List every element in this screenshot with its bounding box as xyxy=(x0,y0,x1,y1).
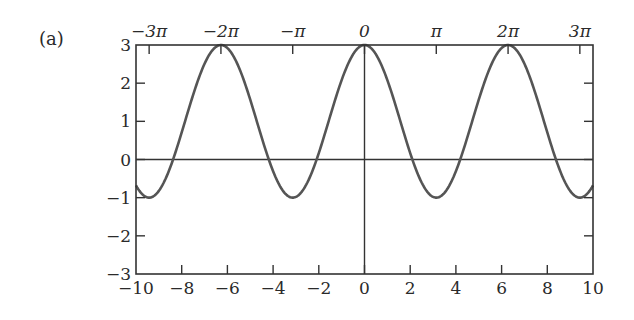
top-x-tick-label: 2π xyxy=(496,21,520,41)
bottom-x-tick-label: −2 xyxy=(306,278,331,298)
bottom-x-tick-labels: −10−8−6−4−20246810 xyxy=(118,278,604,298)
bottom-x-tick-label: −4 xyxy=(261,278,286,298)
top-x-tick-label: π xyxy=(430,21,443,41)
chart: (a) −10−8−6−4−20246810 −3π−2π−π0π2π3π −3… xyxy=(0,0,634,320)
y-tick-label: −1 xyxy=(106,188,131,208)
top-x-tick-label: −2π xyxy=(203,21,240,41)
y-tick-label: 1 xyxy=(120,111,131,131)
top-x-tick-label: 0 xyxy=(359,21,370,41)
top-x-tick-labels: −3π−2π−π0π2π3π xyxy=(131,21,592,41)
bottom-x-tick-label: 4 xyxy=(450,278,461,298)
top-x-tick-label: −3π xyxy=(131,21,168,41)
y-tick-label: 0 xyxy=(120,150,131,170)
bottom-x-tick-label: 6 xyxy=(496,278,507,298)
panel-label: (a) xyxy=(39,28,64,49)
bottom-x-tick-label: 0 xyxy=(359,278,370,298)
bottom-x-tick-label: 8 xyxy=(542,278,553,298)
top-x-tick-label: 3π xyxy=(569,21,592,41)
y-tick-label: −2 xyxy=(106,226,131,246)
bottom-x-tick-label: −6 xyxy=(215,278,240,298)
y-tick-label: 2 xyxy=(120,73,131,93)
bottom-x-tick-label: −8 xyxy=(169,278,194,298)
y-tick-label: 3 xyxy=(120,35,131,55)
reference-lines xyxy=(136,45,593,274)
y-tick-label: −3 xyxy=(106,264,131,284)
y-tick-labels: −3−2−10123 xyxy=(106,35,131,284)
bottom-x-tick-label: 10 xyxy=(582,278,604,298)
top-x-tick-label: −π xyxy=(280,21,306,41)
bottom-x-tick-label: 2 xyxy=(405,278,416,298)
